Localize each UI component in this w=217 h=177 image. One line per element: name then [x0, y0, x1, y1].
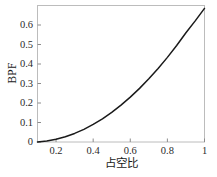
x-tick-label: 0.2 — [49, 146, 62, 157]
plot-frame — [38, 6, 205, 143]
x-tick-label: 0.8 — [161, 146, 174, 157]
y-tick-label: 0.5 — [0, 39, 33, 50]
y-tick-label: 0 — [0, 137, 33, 148]
y-tick-label: 0.6 — [0, 20, 33, 31]
x-tick-label: 1 — [202, 146, 207, 157]
x-tick-label: 0.6 — [124, 146, 137, 157]
x-axis-title: 占空比 — [105, 158, 138, 170]
chart-figure: 00.10.20.30.40.50.6 0.20.40.60.81 BPF 占空… — [0, 0, 217, 177]
data-series-line — [38, 8, 205, 142]
x-axis-tick-marks — [56, 139, 204, 143]
y-tick-label: 0.2 — [0, 98, 33, 109]
y-tick-label: 0.1 — [0, 117, 33, 128]
y-axis-title: BPF — [7, 62, 19, 83]
x-tick-label: 0.4 — [87, 146, 100, 157]
y-axis-tick-marks — [38, 25, 42, 142]
